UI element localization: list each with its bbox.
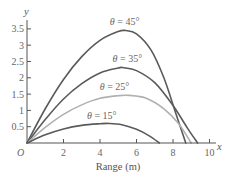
x-axis-symbol: x <box>216 141 222 152</box>
origin-label: O <box>17 147 24 158</box>
curve-label: θ = 25° <box>100 81 130 92</box>
y-tick-label: 1.5 <box>12 89 25 100</box>
y-tick-label: 3 <box>19 40 24 51</box>
y-tick-label: 2.5 <box>12 56 25 67</box>
x-tick-label: 10 <box>205 147 215 158</box>
curve-label: θ = 15° <box>87 110 117 121</box>
curve-label: θ = 45° <box>110 16 140 27</box>
x-ticks: 246810 <box>61 139 215 158</box>
y-tick-label: 0.5 <box>12 121 25 132</box>
x-tick-label: 8 <box>171 147 176 158</box>
x-tick-label: 6 <box>134 147 139 158</box>
x-axis-title: Range (m) <box>96 161 141 173</box>
projectile-range-chart: θ = 45°θ = 35°θ = 25°θ = 15° 246810 0.51… <box>0 0 232 177</box>
curve-label: θ = 35° <box>113 53 143 64</box>
y-tick-label: 2 <box>19 72 24 83</box>
x-tick-label: 2 <box>61 147 66 158</box>
y-axis-symbol: y <box>23 6 29 17</box>
y-ticks: 0.511.522.533.5 <box>12 23 32 132</box>
y-tick-label: 1 <box>19 105 24 116</box>
x-tick-label: 4 <box>98 147 103 158</box>
y-tick-label: 3.5 <box>12 23 25 34</box>
